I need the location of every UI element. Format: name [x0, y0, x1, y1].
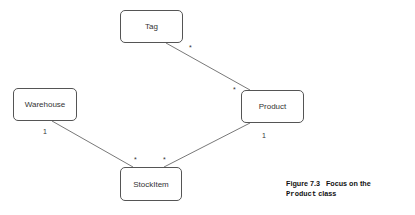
multiplicity-product-end: 1	[262, 132, 266, 139]
class-tag[interactable]: Tag	[120, 10, 183, 43]
multiplicity-tag-end: *	[189, 44, 192, 51]
class-tag-label: Tag	[145, 22, 158, 31]
multiplicity-product-tag-end: *	[233, 86, 236, 93]
figure-title: Focus on the	[326, 179, 371, 188]
figure-suffix: class	[316, 189, 336, 198]
multiplicity-warehouse-end: 1	[43, 128, 47, 135]
figure-number: Figure 7.3	[286, 179, 320, 188]
multiplicity-stockitem-product-end: *	[163, 156, 166, 163]
class-stockitem-label: StockItem	[133, 180, 169, 189]
class-product[interactable]: Product	[241, 90, 304, 123]
figure-caption: Figure 7.3 Focus on the Product class	[286, 179, 371, 199]
class-warehouse[interactable]: Warehouse	[13, 88, 77, 121]
class-warehouse-label: Warehouse	[25, 100, 66, 109]
edge-warehouse-stockitem	[52, 121, 133, 167]
class-product-label: Product	[259, 102, 287, 111]
class-stockitem[interactable]: StockItem	[120, 167, 182, 201]
edge-tag-product	[166, 43, 250, 90]
multiplicity-stockitem-warehouse-end: *	[134, 156, 137, 163]
edge-product-stockitem	[164, 123, 250, 167]
figure-code: Product	[286, 190, 316, 198]
